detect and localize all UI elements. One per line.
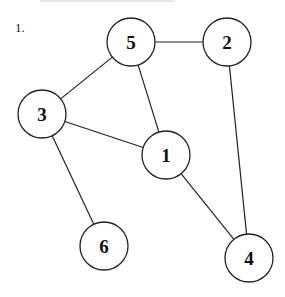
edge-1-4 [181,174,234,240]
edge-5-1 [138,65,159,132]
node-5: 5 [107,18,155,66]
edge-3-6 [52,136,94,225]
graph-nodes: 5 2 3 1 6 4 [18,18,273,282]
svg-text:3: 3 [37,104,47,125]
edge-2-4 [229,66,246,234]
graph-diagram: 5 2 3 1 6 4 [0,0,285,297]
node-6: 6 [80,222,128,270]
node-3: 3 [18,90,66,138]
svg-text:2: 2 [222,32,232,53]
node-1: 1 [142,131,190,179]
node-2: 2 [203,18,251,66]
edge-3-1 [65,122,143,148]
node-4: 4 [225,234,273,282]
svg-text:1: 1 [161,145,171,166]
svg-text:5: 5 [126,32,136,53]
edge-5-3 [61,57,113,99]
svg-text:4: 4 [244,248,254,269]
svg-text:6: 6 [99,236,109,257]
